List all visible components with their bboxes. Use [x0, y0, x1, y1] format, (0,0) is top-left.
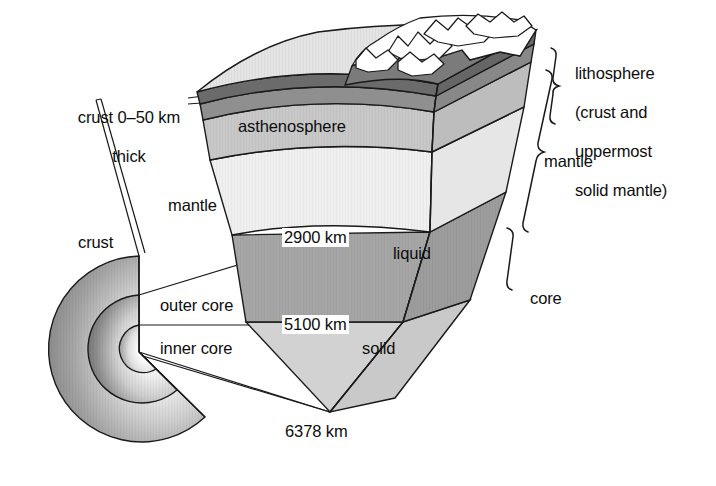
label-lithosphere: lithosphere (crust and uppermost solid m…: [557, 45, 667, 220]
bracket-mantle: [523, 70, 552, 232]
label-crust-sphere: crust: [78, 233, 113, 252]
earth-structure-diagram: crust 0–50 km thick mantle crust outer c…: [0, 0, 716, 486]
label-crust-thickness-line2: thick: [112, 147, 145, 165]
label-lithosphere-line1: lithosphere: [575, 64, 655, 82]
wedge-lower-mantle-front-texture: [210, 147, 432, 235]
label-solid: solid: [362, 339, 395, 358]
label-depth-2900: 2900 km: [282, 228, 349, 247]
label-lithosphere-line2: (crust and: [575, 103, 647, 121]
label-mantle-left: mantle: [168, 196, 217, 215]
label-mantle-right: mantle: [544, 152, 593, 171]
label-outer-core: outer core: [160, 296, 233, 315]
label-depth-5100: 5100 km: [282, 315, 349, 334]
label-core-right: core: [530, 289, 562, 308]
bracket-core: [507, 228, 513, 290]
label-depth-6378: 6378 km: [285, 422, 348, 441]
label-lithosphere-line4: solid mantle): [575, 181, 667, 199]
label-liquid: liquid: [393, 244, 431, 263]
label-inner-core: inner core: [160, 339, 232, 358]
label-asthenosphere: asthenosphere: [238, 117, 346, 136]
label-crust-thickness-line1: crust 0–50 km: [78, 108, 180, 126]
label-crust-thickness: crust 0–50 km thick: [52, 89, 188, 186]
